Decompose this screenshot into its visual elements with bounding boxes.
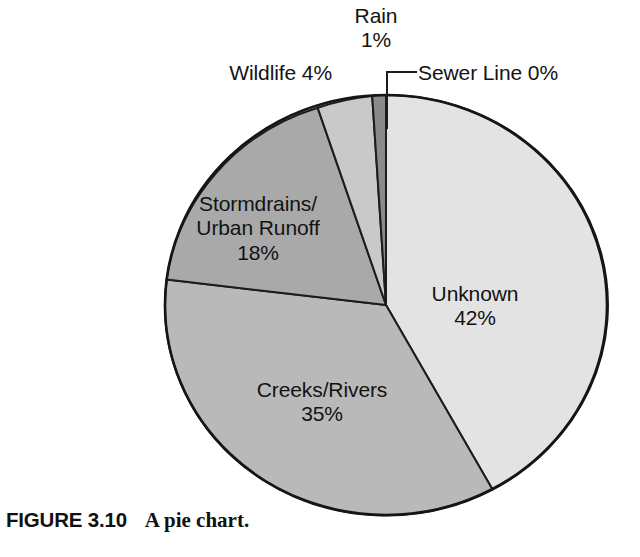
slice-label-unknown-percent: 42% <box>410 306 540 330</box>
slice-label-sewer-line-text: Sewer Line 0% <box>418 61 558 84</box>
slice-label-unknown-name: Unknown <box>410 282 540 306</box>
figure-caption-number: FIGURE 3.10 <box>6 508 127 531</box>
slice-label-stormdrains-name-line2: Urban Runoff <box>178 216 338 240</box>
slice-label-stormdrains-percent: 18% <box>178 241 338 265</box>
slice-label-creeks-name: Creeks/Rivers <box>232 378 412 402</box>
figure-caption-title: A pie chart. <box>145 508 249 532</box>
slice-label-creeks-rivers: Creeks/Rivers 35% <box>232 378 412 427</box>
slice-label-stormdrains-name-line1: Stormdrains/ <box>178 192 338 216</box>
figure-caption: FIGURE 3.10 A pie chart. <box>6 508 249 533</box>
slice-label-rain-name: Rain <box>330 4 422 28</box>
slice-label-sewer-line: Sewer Line 0% <box>418 61 558 85</box>
slice-label-unknown: Unknown 42% <box>410 282 540 331</box>
figure-container: Rain 1% Wildlife 4% Sewer Line 0% Unknow… <box>0 0 640 557</box>
slice-label-stormdrains-urban-runoff: Stormdrains/ Urban Runoff 18% <box>178 192 338 265</box>
slice-label-wildlife: Wildlife 4% <box>152 61 332 85</box>
slice-label-rain: Rain 1% <box>330 4 422 53</box>
slice-label-creeks-percent: 35% <box>232 402 412 426</box>
slice-label-wildlife-text: Wildlife 4% <box>229 61 332 84</box>
pie-slices <box>165 95 608 515</box>
slice-label-rain-percent: 1% <box>330 28 422 52</box>
